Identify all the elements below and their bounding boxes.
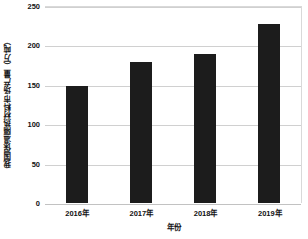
x-tick-label: 2016年 <box>65 207 89 218</box>
x-axis-title: 年份 <box>45 221 302 232</box>
bar[interactable] <box>258 24 280 203</box>
bar-chart: 我国保温隔热材料市场产量（万吨） 050100150200250 2016年20… <box>0 0 308 239</box>
x-tick-label: 2019年 <box>258 207 282 218</box>
x-tick-label: 2017年 <box>130 207 154 218</box>
y-tick-label: 250 <box>27 2 40 11</box>
y-axis-title: 我国保温隔热材料市场产量（万吨） <box>0 0 16 205</box>
y-axis-title-text: 我国保温隔热材料市场产量（万吨） <box>4 37 12 168</box>
bar[interactable] <box>66 86 88 203</box>
bar-slot <box>45 7 109 203</box>
x-axis-tick-labels: 2016年2017年2018年2019年 <box>45 204 302 220</box>
bar-slot <box>237 7 301 203</box>
bar-slot <box>173 7 237 203</box>
y-tick-label: 50 <box>32 159 40 168</box>
bar-slot <box>109 7 173 203</box>
x-tick-label: 2018年 <box>194 207 218 218</box>
y-tick-label: 200 <box>27 41 40 50</box>
y-tick-label: 150 <box>27 80 40 89</box>
bar[interactable] <box>194 54 216 203</box>
y-tick-label: 100 <box>27 120 40 129</box>
y-tick-label: 0 <box>36 199 40 208</box>
y-axis-tick-labels: 050100150200250 <box>16 0 43 239</box>
plot-area <box>45 6 302 203</box>
bar[interactable] <box>130 62 152 203</box>
bars-layer <box>45 7 301 203</box>
